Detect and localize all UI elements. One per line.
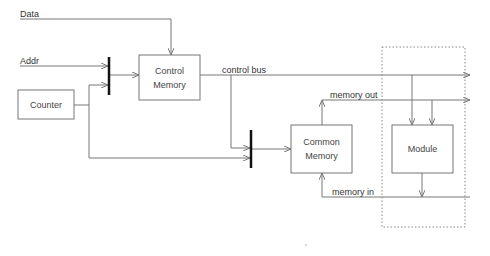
control-memory-label-2: Memory	[153, 78, 186, 92]
stray-dot	[305, 244, 307, 246]
control-bus-to-mux2	[231, 75, 250, 148]
memory-out-label: memory out	[330, 91, 378, 100]
counter-block: Counter	[18, 90, 74, 119]
module-block: Module	[392, 125, 453, 173]
memory-in-label: memory in	[332, 188, 374, 197]
counter-to-mux2	[89, 105, 250, 158]
common-memory-label-2: Memory	[305, 149, 338, 163]
counter-label: Counter	[30, 98, 62, 112]
control-memory-block: Control Memory	[139, 55, 200, 100]
control-memory-label-1: Control	[155, 64, 184, 78]
data-line	[20, 19, 171, 55]
common-memory-block: Common Memory	[291, 125, 352, 173]
common-memory-label-1: Common	[303, 135, 340, 149]
addr-label: Addr	[20, 57, 39, 66]
data-label: Data	[20, 10, 39, 19]
control-bus-label: control bus	[222, 66, 266, 75]
counter-to-mux1	[89, 85, 108, 105]
module-label: Module	[408, 142, 438, 156]
